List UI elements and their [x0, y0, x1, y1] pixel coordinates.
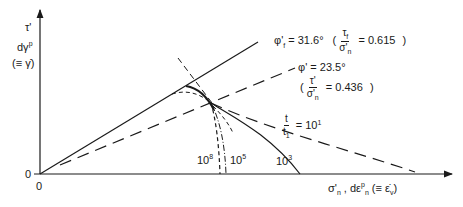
y-axis-dgamma-text: dγ: [17, 41, 29, 53]
failure-ratio-den-sub: n: [347, 48, 351, 55]
failure-ratio-close: ): [402, 34, 406, 46]
mobilised-line-label: φ' = 23.5°: [298, 62, 346, 73]
yield-surface-arc: [186, 86, 214, 110]
t3-exp: 3: [288, 154, 292, 161]
mobilised-ratio-open: (: [300, 81, 304, 93]
mobilised-ratio-fraction: τ' σ'n: [307, 76, 319, 101]
mobilised-friction-line: [60, 68, 295, 165]
time-ratio-den-sub: 1: [286, 132, 290, 139]
phi-f-symbol: φ': [274, 34, 283, 46]
x-axis-rate: (≡ ε̇: [369, 182, 390, 194]
t8-base: 10: [197, 154, 209, 166]
x-axis-label: σ'n , dεpn (≡ ε̇v): [328, 181, 397, 196]
curve-t-10e5: [211, 103, 226, 174]
curve-label-10e5: 105: [230, 153, 246, 166]
y-axis-dgamma-sup: p: [29, 40, 33, 47]
time-ratio-fraction: t t1: [283, 114, 290, 139]
mobilised-ratio-label: ( τ' σ'n = 0.436 ): [300, 76, 374, 101]
curve-label-10e8: 108: [197, 153, 213, 166]
t8-exp: 8: [209, 153, 213, 160]
phi-value: = 23.5°: [307, 61, 345, 73]
y-origin-label: 0: [25, 169, 31, 180]
y-axis-label-tau: τ': [25, 22, 31, 33]
time-ratio-exp: 1: [317, 119, 321, 126]
curve-label-10e3: 103: [276, 154, 292, 167]
time-ratio-eq: = 10: [296, 119, 318, 131]
x-origin-label: 0: [36, 181, 42, 192]
mobilised-ratio-value: = 0.436: [326, 81, 363, 93]
phi-symbol: φ': [298, 61, 307, 73]
phi-f-value: = 31.6°: [285, 34, 323, 46]
failure-ratio-num-sub: f: [346, 33, 348, 40]
x-axis-close: ): [393, 182, 397, 194]
failure-ratio-fraction: τf σ'n: [339, 28, 351, 55]
x-axis-depsilon-sup: p: [361, 181, 365, 188]
time-ratio-num: t: [284, 114, 289, 126]
y-axis-label-dgamma: dγp: [17, 40, 33, 53]
failure-line-label: φ'f = 31.6° ( τf σ'n = 0.615 ): [274, 28, 406, 55]
failure-ratio-value: = 0.615: [358, 34, 395, 46]
mobilised-ratio-num: τ': [309, 76, 317, 88]
mobilised-ratio-den-sub: n: [315, 94, 319, 101]
failure-ratio-open: (: [333, 34, 337, 46]
failure-envelope-line: [40, 42, 258, 174]
mobilised-ratio-close: ): [370, 81, 374, 93]
x-axis-depsilon: , dε: [341, 182, 361, 194]
t5-base: 10: [230, 154, 242, 166]
y-axis-label-rate: (≡ γ̇): [12, 58, 34, 69]
t5-exp: 5: [242, 153, 246, 160]
t3-base: 10: [276, 155, 288, 167]
time-ratio-label: t t1 = 101: [283, 114, 321, 139]
mobilised-ratio-den: σ': [307, 88, 315, 99]
x-axis-sigma: σ': [328, 182, 337, 194]
